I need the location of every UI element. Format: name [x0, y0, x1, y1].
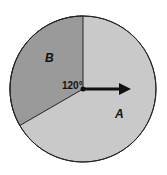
spinner-diagram: B A 120° — [0, 0, 167, 175]
label-b: B — [45, 51, 54, 65]
label-a: A — [114, 107, 124, 121]
angle-label: 120° — [62, 80, 83, 91]
